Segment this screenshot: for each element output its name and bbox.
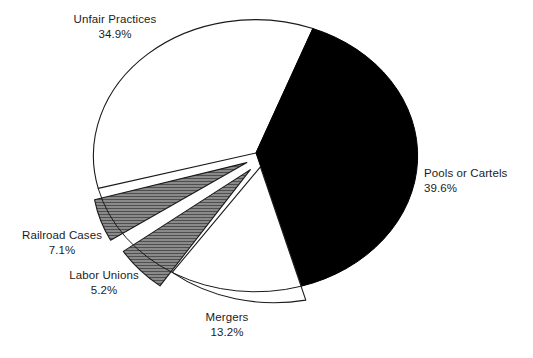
slice-label-value: 39.6% bbox=[424, 181, 532, 196]
pie-chart-figure: Unfair Practices 34.9% Pools or Cartels … bbox=[0, 0, 533, 358]
slice-label-value: 13.2% bbox=[178, 325, 276, 340]
slice-label-pools-or-cartels: Pools or Cartels 39.6% bbox=[424, 166, 532, 195]
slice-label-railroad-cases: Railroad Cases 7.1% bbox=[6, 228, 118, 257]
slice-label-labor-unions: Labor Unions 5.2% bbox=[52, 268, 156, 297]
slice-label-name: Pools or Cartels bbox=[424, 166, 532, 181]
cut-off-caption-text bbox=[10, 352, 310, 358]
slice-label-mergers: Mergers 13.2% bbox=[178, 310, 276, 339]
slice-label-name: Mergers bbox=[178, 310, 276, 325]
slice-label-unfair-practices: Unfair Practices 34.9% bbox=[48, 12, 182, 41]
slice-label-value: 7.1% bbox=[6, 243, 118, 258]
slice-label-name: Railroad Cases bbox=[6, 228, 118, 243]
slice-label-name: Labor Unions bbox=[52, 268, 156, 283]
slice-label-name: Unfair Practices bbox=[48, 12, 182, 27]
slice-label-value: 34.9% bbox=[48, 27, 182, 42]
slice-label-value: 5.2% bbox=[52, 283, 156, 298]
